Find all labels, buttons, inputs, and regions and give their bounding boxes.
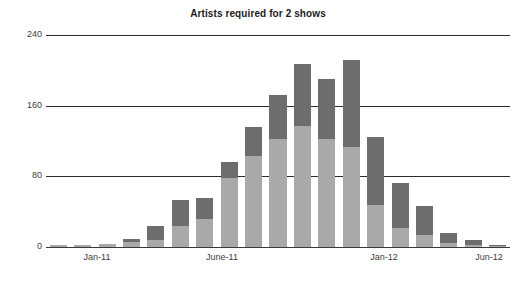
bar-segment-upper: [392, 183, 409, 228]
bar-segment-lower: [489, 246, 506, 247]
bar-segment-upper: [147, 226, 164, 240]
bar-segment-lower: [440, 243, 457, 247]
bar-segment-upper: [367, 137, 384, 205]
bar-Mar-12: [440, 233, 457, 247]
bar-June-11: [221, 162, 238, 247]
bar-segment-lower: [465, 245, 482, 247]
bar-segment-upper: [196, 198, 213, 218]
bar-Dec-10: [74, 245, 91, 247]
bar-segment-upper: [343, 60, 360, 147]
bar-Oct-11: [318, 79, 335, 247]
bar-Feb-12: [416, 206, 433, 247]
x-tick-label: June-11: [206, 252, 238, 262]
bar-segment-lower: [147, 240, 164, 247]
bar-segment-upper: [416, 206, 433, 234]
bar-segment-lower: [367, 205, 384, 247]
bar-Apr-12: [465, 240, 482, 247]
x-tick-label: Jan-12: [370, 252, 398, 262]
bar-segment-upper: [269, 95, 286, 139]
bar-segment-lower: [123, 242, 140, 247]
bar-segment-lower: [269, 139, 286, 247]
bar-May-11: [196, 198, 213, 247]
bar-segment-upper: [172, 200, 189, 226]
x-tick-label: Jan-11: [84, 252, 111, 262]
y-tick-label: 80: [2, 171, 42, 180]
bar-Apr-11: [172, 200, 189, 247]
x-tick-label: Jun-12: [475, 252, 503, 262]
bar-Feb-11: [123, 239, 140, 247]
bar-segment-lower: [343, 147, 360, 247]
bar-segment-upper: [440, 233, 457, 243]
bar-segment-lower: [196, 219, 213, 247]
bar-segment-lower: [74, 245, 91, 247]
x-axis: Jan-11June-11Jan-12Jun-12: [46, 252, 510, 270]
bar-Jul-11: [245, 127, 262, 247]
bar-segment-upper: [318, 79, 335, 139]
bar-segment-lower: [416, 235, 433, 247]
chart-container: Artists required for 2 shows 080160240 J…: [0, 0, 516, 286]
bar-Jan-11: [99, 244, 116, 247]
bars-layer: [46, 35, 510, 247]
bar-Jan-12: [392, 183, 409, 247]
bar-segment-lower: [221, 178, 238, 247]
bar-segment-lower: [172, 226, 189, 247]
bar-Dec-11: [367, 137, 384, 247]
y-axis: 080160240: [0, 35, 42, 247]
bar-Nov-10: [50, 245, 67, 247]
bar-segment-lower: [318, 139, 335, 247]
bar-segment-upper: [221, 162, 238, 178]
y-tick-label: 0: [2, 242, 42, 251]
bar-Nov-11: [343, 60, 360, 247]
chart-title: Artists required for 2 shows: [0, 8, 516, 19]
bar-segment-lower: [50, 245, 67, 247]
bar-segment-lower: [245, 156, 262, 247]
bar-segment-upper: [294, 64, 311, 126]
bar-segment-upper: [245, 127, 262, 156]
y-tick-label: 160: [2, 101, 42, 110]
bar-May-12: [489, 245, 506, 247]
y-tick-label: 240: [2, 30, 42, 39]
bar-Mar-11: [147, 226, 164, 247]
bar-Aug-11: [269, 95, 286, 247]
gridline-0: [46, 247, 510, 248]
bar-segment-lower: [294, 126, 311, 247]
bar-segment-lower: [392, 228, 409, 247]
bar-Sep-11: [294, 64, 311, 247]
plot-area: [46, 35, 510, 247]
bar-segment-lower: [99, 244, 116, 247]
